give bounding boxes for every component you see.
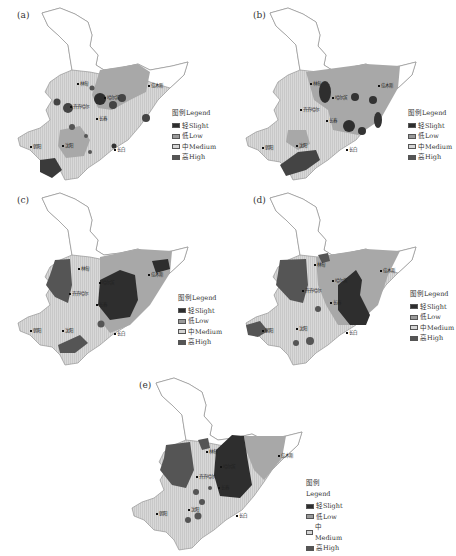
panel-label-c: (c): [17, 195, 29, 205]
city-jiamusi: 佳木斯: [380, 267, 395, 273]
legend-c: 图例Legend 轻Slight 低Low 中Medium 高High: [178, 293, 222, 348]
city-jiamusi: 佳木斯: [148, 82, 163, 88]
legend-item-low: 低Low: [306, 512, 343, 523]
city-lindian: 林甸: [78, 265, 89, 271]
city-qiqihar: 齐齐哈尔: [300, 106, 319, 112]
panel-label-b: (b): [253, 10, 266, 20]
legend-title: 图例Legend: [172, 108, 216, 119]
city-jiamusi: 佳木斯: [278, 452, 293, 458]
city-changbai: 长白: [236, 512, 247, 518]
city-chaoyang: 朝阳: [30, 143, 41, 149]
city-changbai: 长白: [346, 146, 357, 152]
city-jiamusi: 佳木斯: [148, 271, 163, 277]
city-chaoyang: 朝阳: [262, 327, 273, 333]
city-qiqihar: 齐齐哈尔: [70, 103, 89, 109]
legend-a: 图例Legend 轻Slight 低Low 中Medium 高High: [172, 108, 216, 163]
city-harbin: 哈尔滨: [332, 94, 347, 100]
map-panel-e: (e) 林甸 哈尔滨 佳木斯 齐齐哈尔 长春 沈阳 朝阳 长白 图例Legend…: [114, 370, 342, 555]
map-panel-c: (c) 林甸 哈尔滨 佳木斯 齐齐哈尔 长春 沈阳 朝阳 长白 图例Legend…: [0, 185, 228, 370]
city-harbin: 哈尔滨: [220, 463, 235, 469]
legend-item-low: 低Low: [408, 131, 452, 142]
legend-item-high: 高High: [172, 152, 216, 163]
city-qiqihar: 齐齐哈尔: [302, 287, 321, 293]
map-panel-d: (d) 林甸 哈尔滨 佳木斯 齐齐哈尔 长春 沈阳 朝阳 长白 图例Legend…: [228, 185, 456, 370]
legend-b: 图例Legend 轻Slight 低Low 中Medium 高High: [408, 108, 452, 163]
legend-item-high: 高High: [408, 152, 452, 163]
legend-title: 图例Legend: [178, 293, 222, 304]
legend-item-medium: 中Medium: [408, 142, 452, 153]
city-lindian: 林甸: [314, 261, 325, 267]
legend-e: 图例Legend 轻Slight 低Low 中Medium 高High: [306, 478, 343, 554]
panel-label-a: (a): [17, 10, 29, 20]
legend-title: 图例Legend: [306, 478, 343, 499]
city-changchun: 长春: [96, 301, 107, 307]
legend-title: 图例Legend: [410, 289, 454, 300]
city-changbai: 长白: [346, 329, 357, 335]
city-shenyang: 沈阳: [62, 327, 73, 333]
legend-title: 图例Legend: [408, 108, 452, 119]
legend-item-slight: 轻Slight: [172, 121, 216, 132]
legend-item-low: 低Low: [178, 316, 222, 327]
city-changbai: 长白: [114, 146, 125, 152]
city-shenyang: 沈阳: [296, 142, 307, 148]
city-shenyang: 沈阳: [188, 506, 199, 512]
city-lindian: 林甸: [77, 80, 88, 86]
city-chaoyang: 朝阳: [156, 510, 167, 516]
city-changbai: 长白: [114, 330, 125, 336]
panel-label-d: (d): [253, 195, 266, 205]
panel-label-e: (e): [139, 380, 151, 390]
legend-item-slight: 轻Slight: [408, 121, 452, 132]
legend-item-slight: 轻Slight: [306, 501, 343, 512]
legend-item-slight: 轻Slight: [410, 302, 454, 313]
city-chaoyang: 朝阳: [30, 327, 41, 333]
city-harbin: 哈尔滨: [99, 279, 114, 285]
city-chaoyang: 朝阳: [262, 144, 273, 150]
map-panel-a: (a) 林甸 哈尔滨 佳木斯 齐齐哈尔 长春 沈阳 朝阳 长白 图例Legend…: [0, 0, 228, 185]
city-qiqihar: 齐齐哈尔: [69, 290, 88, 296]
legend-item-slight: 轻Slight: [178, 306, 222, 317]
legend-item-high: 高High: [178, 337, 222, 348]
city-shenyang: 沈阳: [296, 325, 307, 331]
legend-item-high: 高High: [410, 333, 454, 344]
map-panel-b: (b) 林甸 哈尔滨 佳木斯 齐齐哈尔 长春 沈阳 朝阳 长白 图例Legend…: [228, 0, 456, 185]
city-changchun: 长春: [330, 299, 341, 305]
city-harbin: 哈尔滨: [104, 94, 119, 100]
legend-item-low: 低Low: [410, 312, 454, 323]
city-qiqihar: 齐齐哈尔: [196, 473, 215, 479]
city-shenyang: 沈阳: [62, 142, 73, 148]
city-jiamusi: 佳木斯: [378, 82, 393, 88]
city-lindian: 林甸: [310, 80, 321, 86]
legend-item-high: 高High: [306, 543, 343, 554]
city-lindian: 林甸: [206, 448, 217, 454]
legend-item-medium: 中Medium: [178, 327, 222, 338]
city-changchun: 长春: [96, 115, 107, 121]
legend-item-medium: 中Medium: [172, 142, 216, 153]
city-changchun: 长春: [326, 117, 337, 123]
city-harbin: 哈尔滨: [332, 277, 347, 283]
legend-d: 图例Legend 轻Slight 低Low 中Medium 高High: [410, 289, 454, 344]
legend-item-medium: 中Medium: [306, 522, 343, 543]
legend-item-low: 低Low: [172, 131, 216, 142]
city-changchun: 长春: [218, 484, 229, 490]
legend-item-medium: 中Medium: [410, 323, 454, 334]
